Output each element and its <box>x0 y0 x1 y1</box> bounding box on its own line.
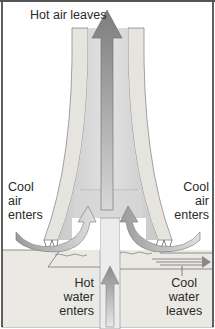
label-line: enters <box>174 208 209 222</box>
label-cool-water-leaves: Cool water leaves <box>166 276 202 318</box>
label-hot-water-enters: Hot water enters <box>59 276 94 318</box>
label-line: Hot <box>59 276 94 290</box>
label-cool-air-enters-right: Cool air enters <box>174 180 209 222</box>
label-line: Cool <box>166 276 202 290</box>
label-line: water <box>166 290 202 304</box>
label-line: air <box>174 194 209 208</box>
cooling-tower-diagram: Hot air leaves Cool air enters Cool air … <box>0 0 215 329</box>
label-hot-air-leaves: Hot air leaves <box>30 8 106 22</box>
label-line: enters <box>8 208 43 222</box>
label-line: enters <box>59 304 94 318</box>
label-cool-air-enters-left: Cool air enters <box>8 180 43 222</box>
label-line: leaves <box>166 304 202 318</box>
label-line: water <box>59 290 94 304</box>
label-line: air <box>8 194 43 208</box>
label-line: Cool <box>8 180 43 194</box>
label-line: Cool <box>174 180 209 194</box>
